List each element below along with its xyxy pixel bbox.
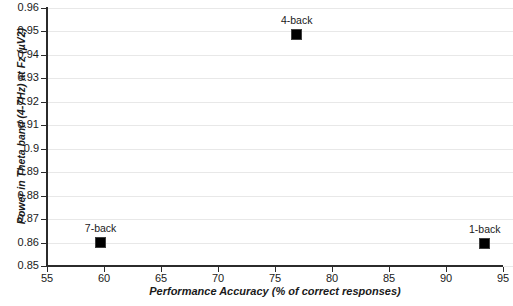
y-axis-tick-label: 0.96 — [0, 2, 39, 13]
x-axis-tick-label: 95 — [483, 273, 513, 284]
data-point-label: 4-back — [257, 15, 337, 26]
y-axis-tick-label: 0.86 — [0, 237, 39, 248]
y-axis-tick — [41, 243, 47, 244]
x-axis-tick-label: 90 — [426, 273, 466, 284]
data-point-label: 1-back — [445, 224, 513, 235]
y-axis-tick — [41, 102, 47, 103]
gridline-horizontal — [47, 219, 513, 220]
gridline-horizontal — [47, 8, 513, 9]
y-axis-tick-label: 0.93 — [0, 72, 39, 83]
data-point-label: 7-back — [61, 223, 141, 234]
y-axis-tick — [41, 8, 47, 9]
y-axis-tick — [41, 196, 47, 197]
gridline-horizontal — [47, 102, 513, 103]
y-axis-tick — [41, 55, 47, 56]
y-axis-tick-label: 0.9 — [0, 143, 39, 154]
y-axis-tick-label: 0.89 — [0, 166, 39, 177]
gridline-horizontal — [47, 125, 513, 126]
y-axis-tick-label: 0.85 — [0, 260, 39, 271]
y-axis-line — [46, 7, 48, 267]
data-point-marker[interactable] — [479, 238, 490, 249]
x-axis-tick-label: 55 — [27, 273, 67, 284]
y-axis-tick-label: 0.91 — [0, 119, 39, 130]
y-axis-tick-label: 0.94 — [0, 49, 39, 60]
x-axis-title: Performance Accuracy (% of correct respo… — [47, 285, 503, 297]
y-axis-tick — [41, 78, 47, 79]
y-axis-tick — [41, 31, 47, 32]
scatter-chart: Power in Theta band (4-7Hz) at Fz (µV2) … — [0, 0, 513, 306]
y-axis-tick-label: 0.88 — [0, 190, 39, 201]
x-axis-tick-label: 80 — [312, 273, 352, 284]
y-axis-tick — [41, 149, 47, 150]
x-axis-tick-label: 65 — [141, 273, 181, 284]
gridline-horizontal — [47, 31, 513, 32]
gridline-horizontal — [47, 78, 513, 79]
x-axis-tick-label: 70 — [198, 273, 238, 284]
y-axis-tick — [41, 172, 47, 173]
data-point-marker[interactable] — [291, 29, 302, 40]
y-axis-tick-label: 0.87 — [0, 213, 39, 224]
data-point-marker[interactable] — [95, 237, 106, 248]
y-axis-tick-label: 0.92 — [0, 96, 39, 107]
gridline-horizontal — [47, 172, 513, 173]
y-axis-tick — [41, 219, 47, 220]
x-axis-tick-label: 75 — [255, 273, 295, 284]
x-axis-tick-label: 85 — [369, 273, 409, 284]
bottom-edge-strip — [0, 300, 513, 306]
x-axis-tick-label: 60 — [84, 273, 124, 284]
y-axis-tick — [41, 125, 47, 126]
gridline-horizontal — [47, 196, 513, 197]
gridline-horizontal — [47, 55, 513, 56]
y-axis-tick-label: 0.95 — [0, 25, 39, 36]
gridline-horizontal — [47, 243, 513, 244]
gridline-horizontal — [47, 149, 513, 150]
